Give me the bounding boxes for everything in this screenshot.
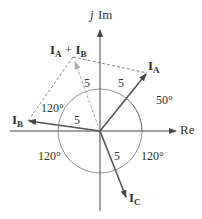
IB-label: IB (12, 112, 23, 129)
IA-label: IA (148, 58, 160, 75)
IC-magnitude: 5 (114, 149, 120, 163)
dashed-line-top (73, 57, 147, 73)
phasor-IB (29, 121, 100, 131)
phasor-diagram: j Im Re IA 5 50° IA + IB 5 IB 5 120° IC … (0, 0, 202, 219)
imag-axis-label: Im (98, 7, 112, 22)
imag-j-label: j (88, 7, 94, 22)
IB-magnitude: 5 (74, 113, 80, 127)
angle-left-lower: 120° (38, 149, 61, 163)
IB-angle: 120° (41, 101, 64, 115)
IA-magnitude: 5 (118, 76, 124, 90)
sum-label: IA + IB (50, 42, 86, 59)
phasor-IC (100, 131, 126, 197)
sum-magnitude: 5 (84, 76, 90, 90)
IA-angle: 50° (156, 93, 173, 107)
real-axis-label: Re (180, 122, 195, 137)
angle-right-lower: 120° (141, 149, 164, 163)
IC-label: IC (129, 190, 141, 207)
arc-50 (127, 99, 142, 131)
